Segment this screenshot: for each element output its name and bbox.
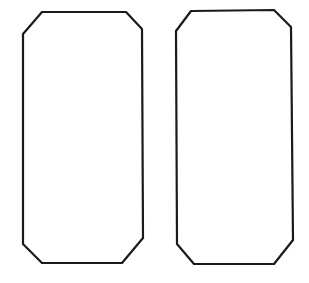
left-chamfered-rectangle (23, 12, 143, 263)
right-chamfered-rectangle (176, 10, 293, 264)
line-drawing (0, 0, 309, 283)
drawing-canvas (0, 0, 309, 283)
